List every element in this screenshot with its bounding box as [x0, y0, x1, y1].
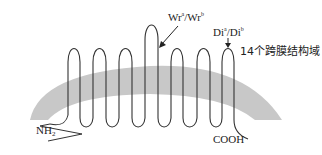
n-terminus-sub: 2: [52, 130, 56, 138]
domain-count-label: 14个跨膜结构域: [240, 46, 320, 57]
di-label: Dia/Dib: [213, 27, 244, 38]
wr-label-sup-b: b: [201, 11, 204, 17]
wr-label-sep: /Wr: [184, 11, 201, 23]
protein-topology-diagram: Wra/Wrb Dia/Dib 14个跨膜结构域 NH2 COOH: [0, 0, 322, 155]
n-terminus-main: NH: [36, 124, 52, 136]
di-label-sup-b: b: [241, 26, 244, 32]
c-terminus-label: COOH: [213, 134, 244, 145]
di-label-sep: /Di: [227, 26, 241, 38]
wr-arrow-line: [162, 26, 178, 44]
wr-label: Wra/Wrb: [168, 12, 204, 23]
di-label-sup-a: a: [224, 26, 227, 32]
wr-label-sup-a: a: [182, 11, 185, 17]
di-arrow-head: [225, 43, 231, 48]
wr-arrow-head: [159, 41, 166, 48]
wr-label-main: Wr: [168, 11, 182, 23]
n-terminus-label: NH2: [36, 125, 55, 136]
di-label-main: Di: [213, 26, 224, 38]
